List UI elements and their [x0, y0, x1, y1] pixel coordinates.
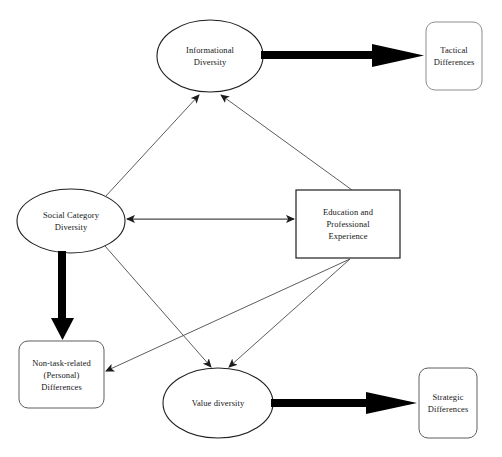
diagram-canvas: Informational Diversity Tactical Differe… [0, 0, 502, 457]
node-education-professional-experience [296, 190, 400, 258]
edge-social-to-nontask [51, 251, 74, 340]
edge-social-to-value [105, 246, 211, 367]
edge-informational-to-tactical [261, 44, 424, 67]
node-social-category-diversity [17, 189, 125, 253]
edge-value-to-strategic [271, 392, 417, 414]
node-informational-diversity [157, 20, 263, 92]
diagram-graphics [0, 0, 502, 457]
edge-education-to-informational [221, 95, 352, 190]
node-tactical-differences [426, 22, 482, 90]
node-non-task-related-differences [19, 341, 104, 408]
edge-education-to-nontask [106, 259, 350, 371]
edge-social-to-informational [105, 95, 199, 197]
edge-education-to-value [229, 259, 350, 367]
node-shapes [17, 20, 482, 438]
node-strategic-differences [419, 368, 477, 438]
node-value-diversity [163, 368, 273, 438]
